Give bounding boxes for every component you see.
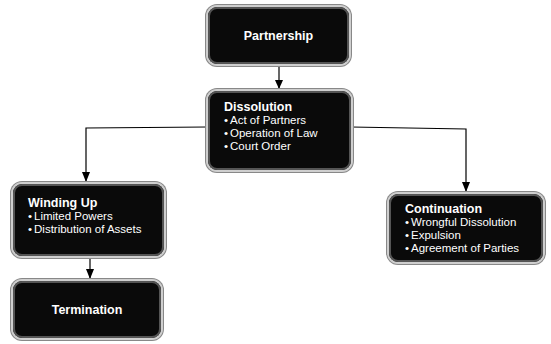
node-item: Court Order <box>224 140 351 153</box>
node-title: Termination <box>52 303 123 317</box>
node-title: Winding Up <box>28 196 164 210</box>
node-item: Distribution of Assets <box>28 223 164 236</box>
node-item: Operation of Law <box>224 127 351 140</box>
node-partnership: Partnership <box>208 7 349 64</box>
node-title: Partnership <box>244 29 313 43</box>
node-item: Wrongful Dissolution <box>405 216 543 229</box>
node-winding-up: Winding Up Limited Powers Distribution o… <box>13 184 164 256</box>
node-item: Agreement of Parties <box>405 242 543 255</box>
node-title: Dissolution <box>224 100 351 114</box>
edge-dissolution-continuation <box>351 127 466 191</box>
node-termination: Termination <box>13 281 161 338</box>
edge-dissolution-winding-up <box>86 127 207 181</box>
node-item: Act of Partners <box>224 114 351 127</box>
node-item: Expulsion <box>405 229 543 242</box>
node-item: Limited Powers <box>28 210 164 223</box>
node-title: Continuation <box>405 202 543 216</box>
node-continuation: Continuation Wrongful Dissolution Expuls… <box>389 194 543 262</box>
node-dissolution: Dissolution Act of Partners Operation of… <box>208 91 351 170</box>
